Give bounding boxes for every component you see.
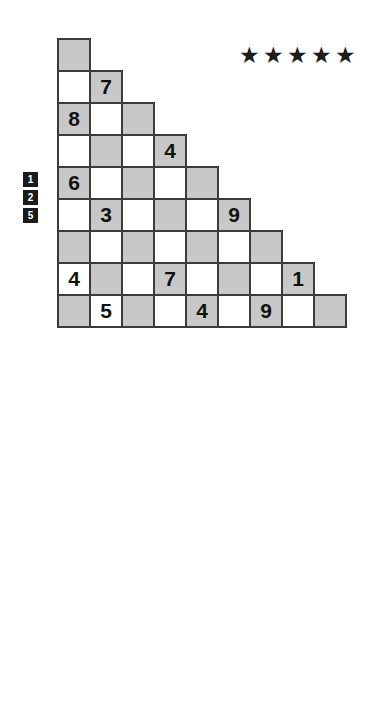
grid-cell-empty[interactable] — [217, 262, 251, 296]
grid-cell-empty[interactable] — [153, 166, 187, 200]
puzzle-grid: 784639471549 — [57, 38, 345, 326]
grid-cell-empty[interactable] — [249, 230, 283, 264]
grid-cell-empty[interactable] — [121, 198, 155, 232]
grid-cell-empty[interactable] — [57, 294, 91, 328]
grid-cell-empty[interactable] — [89, 134, 123, 168]
grid-cell-empty[interactable] — [153, 198, 187, 232]
grid-cell-empty[interactable] — [185, 198, 219, 232]
grid-row: 549 — [57, 294, 345, 328]
grid-cell-empty[interactable] — [121, 102, 155, 136]
grid-cell-empty[interactable] — [153, 294, 187, 328]
grid-cell-empty[interactable] — [57, 230, 91, 264]
grid-cell-empty[interactable] — [57, 70, 91, 104]
grid-cell-empty[interactable] — [185, 166, 219, 200]
grid-cell-empty[interactable] — [217, 294, 251, 328]
puzzle-2: ★★★★★1261936571244983 — [0, 357, 378, 711]
clue-box: 2 — [23, 190, 38, 205]
grid-cell-empty[interactable] — [57, 134, 91, 168]
grid-row: 7 — [57, 70, 345, 104]
grid-cell-empty[interactable] — [89, 262, 123, 296]
grid-row: 471 — [57, 262, 345, 296]
grid-cell-filled[interactable]: 1 — [281, 262, 315, 296]
grid-cell-filled[interactable]: 9 — [249, 294, 283, 328]
grid-cell-empty[interactable] — [121, 230, 155, 264]
grid-cell-empty[interactable] — [121, 294, 155, 328]
grid-cell-empty[interactable] — [313, 294, 347, 328]
grid-row — [57, 230, 345, 264]
grid-cell-empty[interactable] — [89, 102, 123, 136]
grid-cell-empty[interactable] — [185, 262, 219, 296]
puzzle-1: ★★★★★125784639471549 — [0, 0, 378, 360]
grid-row: 4 — [57, 134, 345, 168]
grid-cell-filled[interactable]: 3 — [89, 198, 123, 232]
grid-cell-empty[interactable] — [217, 230, 251, 264]
grid-cell-empty[interactable] — [89, 230, 123, 264]
grid-cell-empty[interactable] — [89, 166, 123, 200]
grid-cell-filled[interactable]: 5 — [89, 294, 123, 328]
grid-cell-empty[interactable] — [57, 198, 91, 232]
grid-row: 6 — [57, 166, 345, 200]
grid-cell-empty[interactable] — [121, 262, 155, 296]
grid-cell-filled[interactable]: 6 — [57, 166, 91, 200]
grid-row — [57, 38, 345, 72]
grid-row: 39 — [57, 198, 345, 232]
grid-cell-empty[interactable] — [57, 38, 91, 72]
grid-cell-empty[interactable] — [249, 262, 283, 296]
grid-cell-filled[interactable]: 4 — [57, 262, 91, 296]
grid-cell-filled[interactable]: 9 — [217, 198, 251, 232]
clue-box: 5 — [23, 208, 38, 223]
grid-cell-filled[interactable]: 4 — [153, 134, 187, 168]
grid-cell-filled[interactable]: 7 — [89, 70, 123, 104]
grid-cell-empty[interactable] — [281, 294, 315, 328]
grid-cell-filled[interactable]: 4 — [185, 294, 219, 328]
grid-row: 8 — [57, 102, 345, 136]
clue-box: 1 — [23, 172, 38, 187]
grid-cell-filled[interactable]: 8 — [57, 102, 91, 136]
clue-column: 125 — [23, 172, 38, 223]
grid-cell-empty[interactable] — [121, 134, 155, 168]
grid-cell-empty[interactable] — [153, 230, 187, 264]
grid-cell-filled[interactable]: 7 — [153, 262, 187, 296]
grid-cell-empty[interactable] — [185, 230, 219, 264]
grid-cell-empty[interactable] — [121, 166, 155, 200]
